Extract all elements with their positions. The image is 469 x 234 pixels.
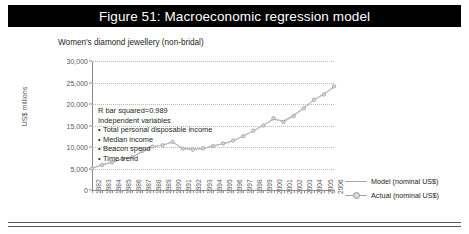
x-axis-tick-label: 1989 xyxy=(165,179,172,194)
series-marker-actual xyxy=(282,120,285,123)
legend-item-model: Model (nominal US$) xyxy=(345,174,439,188)
series-marker-actual xyxy=(332,85,335,88)
legend-label-model: Model (nominal US$) xyxy=(371,177,439,186)
x-axis-tick-label: 1984 xyxy=(115,179,122,194)
annotation-variable-3: Time trend xyxy=(98,154,212,164)
figure-container: Figure 51: Macroeconomic regression mode… xyxy=(0,0,469,234)
series-marker-actual xyxy=(242,135,245,138)
series-marker-actual xyxy=(90,167,93,170)
series-marker-actual xyxy=(252,129,255,132)
x-axis-tick-labels: 1982198319841985198619871988198919901991… xyxy=(92,192,335,234)
x-axis-tick-label: 2000 xyxy=(276,179,283,194)
x-axis-tick-label: 1998 xyxy=(256,179,263,194)
chart-legend: Model (nominal US$) Actual (nominal US$) xyxy=(345,174,439,202)
annotation-heading: Independent variables xyxy=(98,116,212,126)
series-marker-actual xyxy=(272,116,275,119)
x-axis-tick-label: 1996 xyxy=(236,179,243,194)
x-axis-tick-label: 1985 xyxy=(125,179,132,194)
x-axis-tick-label: 1983 xyxy=(105,179,112,194)
bottom-rule-thin xyxy=(8,226,461,227)
figure-title: Figure 51: Macroeconomic regression mode… xyxy=(99,9,370,24)
x-axis-tick-label: 1992 xyxy=(195,179,202,194)
x-axis-tick-label: 1994 xyxy=(216,179,223,194)
x-axis-tick-label: 1993 xyxy=(206,179,213,194)
x-axis-tick-label: 1995 xyxy=(226,179,233,194)
x-axis-tick-label: 1988 xyxy=(155,179,162,194)
y-axis-tick-label: 20,000 xyxy=(67,101,88,108)
annotation-variable-0: Total personal disposable income xyxy=(98,125,212,135)
legend-label-actual: Actual (nominal US$) xyxy=(371,191,439,200)
series-marker-actual xyxy=(292,114,295,117)
x-axis-tick-label: 2002 xyxy=(296,179,303,194)
regression-annotation: R bar squared=0.989 Independent variable… xyxy=(98,106,212,164)
bottom-rule-thick xyxy=(8,222,461,223)
y-axis-tick-label: 5,000 xyxy=(70,165,88,172)
y-axis-tick-label: 30,000 xyxy=(67,58,88,65)
y-axis-tick-label: 15,000 xyxy=(67,122,88,129)
series-marker-actual xyxy=(322,93,325,96)
figure-subtitle: Women's diamond jewellery (non-bridal) xyxy=(58,38,204,47)
y-axis-tick-label: 10,000 xyxy=(67,144,88,151)
y-axis-tick-label: 0 xyxy=(84,187,88,194)
x-axis-tick-label: 2001 xyxy=(286,179,293,194)
series-marker-actual xyxy=(100,163,103,166)
x-axis-tick-label: 2003 xyxy=(306,179,313,194)
series-marker-actual xyxy=(231,139,234,142)
annotation-variable-1: Median income xyxy=(98,135,212,145)
figure-title-bar: Figure 51: Macroeconomic regression mode… xyxy=(8,5,461,27)
chart-area: US$ millions 05,00010,00015,00020,00025,… xyxy=(0,50,469,200)
x-axis-tick-label: 1999 xyxy=(266,179,273,194)
annotation-r-squared: R bar squared=0.989 xyxy=(98,106,212,116)
x-axis-tick-label: 1982 xyxy=(95,179,102,194)
series-marker-actual xyxy=(262,124,265,127)
series-marker-actual xyxy=(302,107,305,110)
x-axis-tick-label: 1997 xyxy=(246,179,253,194)
series-marker-actual xyxy=(312,98,315,101)
x-axis-tick-label: 2005 xyxy=(327,179,334,194)
y-axis-tick-label: 25,000 xyxy=(67,79,88,86)
x-axis-tick-label: 1990 xyxy=(175,179,182,194)
y-axis-tick-labels: 05,00010,00015,00020,00025,00030,000 xyxy=(0,61,88,190)
annotation-variable-2: Beacon spend xyxy=(98,144,212,154)
x-axis-tick-label: 2006 xyxy=(337,179,344,194)
legend-line-marker-icon-actual xyxy=(345,190,367,200)
x-axis-tick-label: 2004 xyxy=(316,179,323,194)
legend-item-actual: Actual (nominal US$) xyxy=(345,188,439,202)
series-marker-actual xyxy=(221,142,224,145)
x-axis-tick-label: 1987 xyxy=(145,179,152,194)
x-axis-tick-label: 1986 xyxy=(135,179,142,194)
legend-line-icon-model xyxy=(345,176,367,186)
x-axis-tick-label: 1991 xyxy=(185,179,192,194)
